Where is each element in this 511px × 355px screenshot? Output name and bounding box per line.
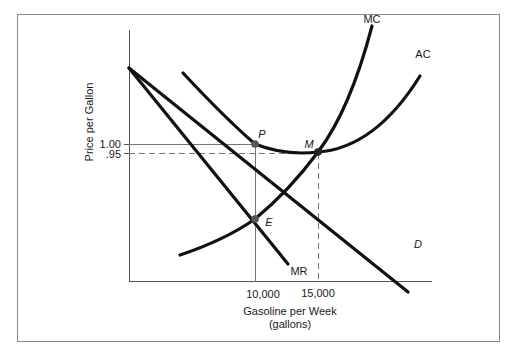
point-m-label: M [304, 138, 314, 150]
y-tick-label-0-95: .95 [106, 148, 121, 160]
x-axis-subtitle: (gallons) [269, 318, 311, 330]
marginal-revenue-curve [129, 68, 288, 264]
marginal-cost-curve [180, 26, 372, 255]
y-axis-title: Price per Gallon [83, 83, 95, 162]
x-tick-label-10000: 10,000 [246, 288, 280, 300]
x-tick-label-15000: 15,000 [301, 287, 335, 299]
point-m-marker [314, 148, 322, 156]
point-p-marker [251, 140, 259, 148]
x-axis-title: Gasoline per Week [243, 305, 337, 317]
mr-curve-label: MR [290, 265, 307, 277]
point-e-marker [251, 215, 259, 223]
monopoly-cost-chart: 1.00 .95 10,000 15,000 Price per Gallon … [0, 0, 511, 355]
mc-curve-label: MC [363, 13, 380, 25]
d-curve-label: D [414, 238, 422, 250]
ac-curve-label: AC [415, 48, 430, 60]
demand-curve [129, 68, 408, 292]
point-e-label: E [265, 216, 273, 228]
point-p-label: P [258, 128, 266, 140]
